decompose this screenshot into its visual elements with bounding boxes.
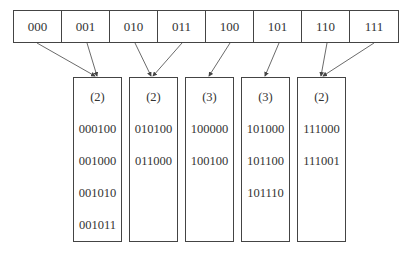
bucket-1: (2) 000100 001000 001010 001011	[73, 77, 122, 242]
arrow-111	[323, 43, 374, 76]
arrow-001	[87, 43, 97, 76]
arrow-110	[321, 43, 327, 76]
bucket-5: (2) 111000 111001	[297, 77, 346, 242]
bucket-key: 101000	[242, 122, 289, 137]
local-depth: (3)	[242, 90, 289, 105]
bucket-key: 111000	[298, 122, 345, 137]
bucket-3: (3) 100000 100100	[185, 77, 234, 242]
bucket-key: 000100	[74, 122, 121, 137]
local-depth: (3)	[186, 90, 233, 105]
arrow-100	[209, 43, 230, 76]
bucket-key: 111001	[298, 154, 345, 169]
bucket-key: 011000	[130, 154, 177, 169]
bucket-key: 010100	[130, 122, 177, 137]
arrow-000	[37, 43, 95, 76]
bucket-key: 101100	[242, 154, 289, 169]
bucket-key: 100100	[186, 154, 233, 169]
arrow-101	[265, 43, 279, 76]
local-depth: (2)	[298, 90, 345, 105]
bucket-2: (2) 010100 011000	[129, 77, 178, 242]
bucket-key: 001000	[74, 154, 121, 169]
arrow-010	[135, 43, 151, 76]
local-depth: (2)	[74, 90, 121, 105]
bucket-key: 100000	[186, 122, 233, 137]
bucket-4: (3) 101000 101100 101110	[241, 77, 290, 242]
bucket-key: 101110	[242, 186, 289, 201]
bucket-key: 001011	[74, 218, 121, 233]
bucket-key: 001010	[74, 186, 121, 201]
arrow-011	[153, 43, 182, 76]
local-depth: (2)	[130, 90, 177, 105]
